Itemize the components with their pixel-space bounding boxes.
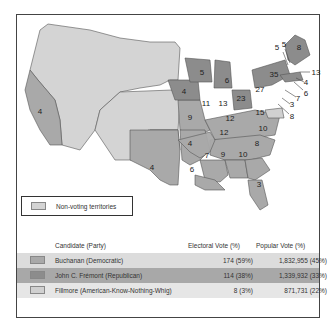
svg-text:27: 27 <box>256 85 265 94</box>
svg-text:5: 5 <box>200 68 205 77</box>
svg-text:11: 11 <box>202 99 211 108</box>
svg-text:12: 12 <box>226 114 235 123</box>
electoral-vote: 174 (59%) <box>195 257 253 264</box>
electoral-vote: 114 (38%) <box>195 272 253 279</box>
svg-text:15: 15 <box>256 108 265 117</box>
svg-text:8: 8 <box>255 139 260 148</box>
svg-text:5: 5 <box>282 40 287 49</box>
popular-vote: 1,832,955 (45%) <box>247 257 327 264</box>
popular-vote: 1,339,932 (33%) <box>247 272 327 279</box>
territories-label: Non-voting territories <box>56 203 116 210</box>
svg-text:13: 13 <box>312 68 321 77</box>
territories-legend: Non-voting territories <box>21 196 133 216</box>
table-row: John C. Frémont (Republican) 114 (38%) 1… <box>17 268 319 283</box>
svg-text:6: 6 <box>304 89 309 98</box>
territories-swatch <box>31 202 46 210</box>
svg-text:6: 6 <box>190 165 195 174</box>
svg-text:4: 4 <box>182 87 187 96</box>
fillmore-state-md <box>265 108 284 118</box>
svg-text:5: 5 <box>275 43 280 52</box>
table-row: Buchanan (Democratic) 174 (59%) 1,832,95… <box>17 253 319 268</box>
svg-text:4: 4 <box>304 78 309 87</box>
svg-text:23: 23 <box>237 94 246 103</box>
svg-text:6: 6 <box>225 76 230 85</box>
fillmore-swatch <box>30 286 45 294</box>
candidate-name: John C. Frémont (Republican) <box>55 272 142 279</box>
democratic-swatch <box>30 256 45 264</box>
svg-text:10: 10 <box>259 124 268 133</box>
table-row: Fillmore (American-Know-Nothing-Whig) 8 … <box>17 283 319 298</box>
header-popular: Popular Vote (%) <box>256 242 305 249</box>
svg-text:4: 4 <box>188 139 193 148</box>
svg-text:35: 35 <box>270 70 279 79</box>
svg-text:4: 4 <box>38 107 43 116</box>
republican-swatch <box>30 271 45 279</box>
svg-text:3: 3 <box>290 100 295 109</box>
svg-text:9: 9 <box>188 113 193 122</box>
candidate-name: Buchanan (Democratic) <box>55 257 123 264</box>
svg-text:7: 7 <box>205 151 210 160</box>
svg-text:12: 12 <box>220 128 229 137</box>
svg-text:8: 8 <box>290 112 295 121</box>
header-electoral: Electoral Vote (%) <box>188 242 240 249</box>
svg-text:4: 4 <box>150 163 155 172</box>
popular-vote: 871,731 (22%) <box>247 287 327 294</box>
electoral-vote: 8 (3%) <box>195 287 253 294</box>
svg-text:3: 3 <box>257 180 262 189</box>
candidate-name: Fillmore (American-Know-Nothing-Whig) <box>55 287 172 294</box>
header-candidate: Candidate (Party) <box>55 242 106 249</box>
svg-text:9: 9 <box>221 150 226 159</box>
svg-text:7: 7 <box>296 94 301 103</box>
svg-text:8: 8 <box>297 43 302 52</box>
svg-text:10: 10 <box>239 150 248 159</box>
svg-text:13: 13 <box>219 99 228 108</box>
